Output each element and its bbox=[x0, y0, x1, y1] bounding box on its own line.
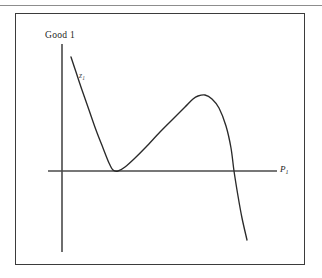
excess-demand-curve bbox=[71, 57, 247, 240]
x-axis-label-subscript: 1 bbox=[286, 169, 289, 175]
curve-label: z1 bbox=[79, 72, 85, 82]
x-axis-label: P1 bbox=[280, 165, 289, 175]
y-axis-label: Good 1 bbox=[45, 31, 75, 41]
plot-area bbox=[0, 0, 322, 278]
curve-label-subscript: 1 bbox=[82, 75, 85, 81]
